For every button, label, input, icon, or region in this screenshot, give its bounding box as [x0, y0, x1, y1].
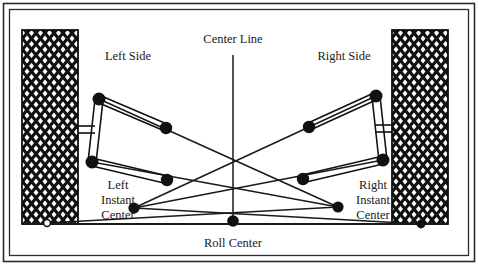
right-tire — [392, 30, 448, 224]
right-lower-ball-joint — [377, 154, 390, 167]
left-lower-ball-joint — [86, 156, 99, 169]
suspension-geometry-figure: Center Line Left Side Right Side Left In… — [0, 0, 478, 265]
left-contact-patch-marker — [44, 220, 51, 227]
right-side-label: Right Side — [317, 49, 371, 63]
right-instant-center-label-line-3: Center — [356, 208, 390, 222]
left-tire-tread — [22, 30, 78, 224]
center-line-label: Center Line — [203, 32, 263, 46]
left-tire — [22, 30, 78, 224]
right-upper-inner-pivot — [303, 121, 315, 133]
right-instant-center-label-line-2: Instant — [356, 193, 391, 207]
left-lower-inner-pivot — [161, 174, 173, 186]
left-instant-center-label-line-3: Center — [101, 208, 135, 222]
right-contact-patch-marker — [417, 220, 426, 229]
right-instant-center-label-line-1: Right — [359, 178, 387, 192]
right-tire-tread — [392, 30, 448, 224]
left-side-label: Left Side — [105, 49, 152, 63]
roll-center-label: Roll Center — [204, 236, 263, 250]
right-upper-ball-joint — [370, 90, 383, 103]
left-upper-inner-pivot — [160, 122, 172, 134]
left-instant-center-label-line-2: Instant — [101, 193, 136, 207]
left-instant-center-label-line-1: Left — [108, 178, 129, 192]
left-upper-ball-joint — [93, 93, 106, 106]
roll-center-point — [227, 215, 239, 227]
right-instant-center-label: Right Instant Center — [356, 178, 391, 222]
right-lower-inner-pivot — [297, 173, 309, 185]
right-instant-center-point — [332, 201, 343, 212]
diagram-canvas: Center Line Left Side Right Side Left In… — [0, 0, 478, 265]
